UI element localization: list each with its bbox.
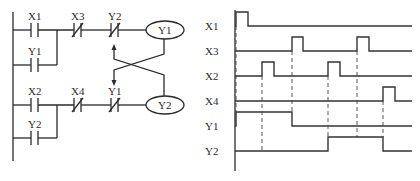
signal-label-x1: X1 [205,20,218,32]
coil-label: Y2 [158,99,171,111]
waveform-x3 [235,37,412,51]
contact-x4-normally-closed: X4 [71,85,85,112]
contact-label: X1 [28,10,41,22]
contact-label: Y1 [28,45,41,57]
contact-y1-normally-closed: Y1 [108,85,121,112]
contact-label: X2 [28,85,41,97]
signal-label-x2: X2 [205,70,218,82]
contact-x1-normally-open: X1 [28,10,41,37]
ladder-and-timing-figure: X1 X3 Y2 Y1 [0,0,420,181]
signal-label-x4: X4 [205,95,219,107]
contact-label: Y2 [108,10,121,22]
rung-2: X2 X4 Y1 Y2 [13,85,184,145]
branch-y1-normally-open: Y1 [13,30,57,72]
coil-label: Y1 [158,24,171,36]
signal-label-y1: Y1 [205,120,218,132]
rung-1: X1 X3 Y2 Y1 [13,10,184,72]
coil-y2: Y2 [146,96,184,114]
ladder-diagram: X1 X3 Y2 Y1 [13,10,184,161]
waveform-x2 [235,62,412,76]
contact-label: Y2 [28,118,41,130]
contact-label: Y1 [108,85,121,97]
contact-x3-normally-closed: X3 [71,10,85,37]
signal-label-x3: X3 [205,45,219,57]
signal-label-y2: Y2 [205,145,218,157]
coil-y1: Y1 [146,21,184,39]
waveform-x1 [235,12,412,26]
arrow-up-icon [112,44,117,50]
branch-y2-normally-open: Y2 [13,105,57,145]
dashed-time-markers [236,26,383,151]
timing-diagram: X1 X3 X2 X4 Y1 Y2 [205,10,412,171]
contact-label: X4 [71,85,85,97]
contact-label: X3 [71,10,85,22]
contact-x2-normally-open: X2 [28,85,41,112]
contact-y2-normally-closed: Y2 [108,10,121,37]
